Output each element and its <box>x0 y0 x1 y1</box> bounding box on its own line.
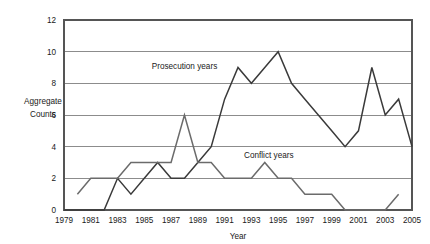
line-chart: 024681012 197919811983198519871989199119… <box>0 0 430 244</box>
y-tick-12: 12 <box>47 16 57 25</box>
y-axis-title-line2: Counts <box>30 110 56 119</box>
x-axis-tick-labels: 1979198119831985198719891991199319951997… <box>55 216 422 225</box>
x-tick-1995: 1995 <box>269 216 288 225</box>
series-label-prosecution-years: Prosecution years <box>152 62 218 71</box>
series-line-conflict-years <box>77 115 398 210</box>
x-tick-1985: 1985 <box>135 216 154 225</box>
series-annotations: Prosecution yearsConflict years <box>152 62 294 160</box>
x-tick-1989: 1989 <box>189 216 208 225</box>
y-tick-0: 0 <box>51 206 56 215</box>
x-tick-1981: 1981 <box>82 216 101 225</box>
y-tick-4: 4 <box>51 143 56 152</box>
y-tick-8: 8 <box>51 79 56 88</box>
x-tick-1999: 1999 <box>323 216 342 225</box>
y-axis-title-line1: Aggregate <box>24 97 62 106</box>
x-tick-1993: 1993 <box>242 216 261 225</box>
series-layer <box>64 52 412 210</box>
series-line-prosecution-years <box>64 52 412 210</box>
series-label-conflict-years: Conflict years <box>244 151 294 160</box>
y-tick-2: 2 <box>51 174 56 183</box>
chart-container: 024681012 197919811983198519871989199119… <box>0 0 430 244</box>
x-tick-1987: 1987 <box>162 216 181 225</box>
x-tick-1991: 1991 <box>216 216 235 225</box>
x-axis-title: Year <box>230 232 247 241</box>
y-tick-10: 10 <box>47 48 57 57</box>
x-tick-2005: 2005 <box>403 216 422 225</box>
x-tick-2001: 2001 <box>349 216 368 225</box>
x-tick-1997: 1997 <box>296 216 315 225</box>
x-tick-1983: 1983 <box>108 216 127 225</box>
x-tick-1979: 1979 <box>55 216 74 225</box>
x-tick-2003: 2003 <box>376 216 395 225</box>
